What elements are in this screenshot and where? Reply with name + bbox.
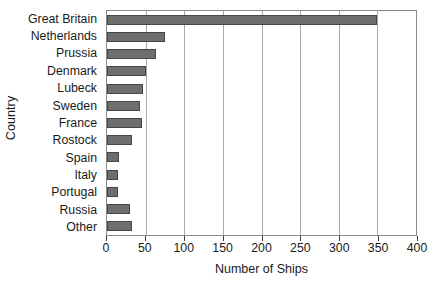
bar-row: [107, 166, 416, 183]
bar: [107, 101, 140, 111]
bar: [107, 135, 132, 145]
bar: [107, 118, 142, 128]
x-axis-tick-label: 50: [138, 241, 152, 255]
bar-row: [107, 80, 416, 97]
x-axis-tick-label: 350: [368, 241, 389, 255]
bar-row: [107, 114, 416, 131]
bar-row: [107, 28, 416, 45]
x-axis-tick-label: 100: [173, 241, 194, 255]
bar-row: [107, 63, 416, 80]
ships-by-country-bar-chart: Country Great BritainNetherlandsPrussiaD…: [0, 0, 435, 296]
bar: [107, 66, 146, 76]
bar-row: [107, 149, 416, 166]
y-axis-tick-label: France: [16, 114, 102, 131]
x-axis-tick-label: 300: [329, 241, 350, 255]
x-axis-tick-label: 400: [407, 241, 428, 255]
y-axis-tick-label: Lubeck: [16, 80, 102, 97]
bar-row: [107, 45, 416, 62]
y-axis-tick-label: Portugal: [16, 184, 102, 201]
bar: [107, 204, 130, 214]
bar: [107, 170, 118, 180]
bar: [107, 84, 143, 94]
y-axis-tick-label: Russia: [16, 201, 102, 218]
bar: [107, 15, 377, 25]
y-axis-tick-label: Other: [16, 219, 102, 236]
bar: [107, 32, 165, 42]
x-axis-tick-label: 150: [212, 241, 233, 255]
y-axis-tick-label: Netherlands: [16, 27, 102, 44]
y-axis-tick-label: Rostock: [16, 132, 102, 149]
x-axis-tick-label: 0: [103, 241, 110, 255]
x-axis-title: Number of Ships: [106, 262, 417, 276]
x-axis-tick-label: 200: [251, 241, 272, 255]
bar-row: [107, 132, 416, 149]
y-axis-tick-label: Sweden: [16, 97, 102, 114]
bar-series: [107, 11, 416, 235]
y-axis-tick-label: Prussia: [16, 45, 102, 62]
bar: [107, 221, 132, 231]
y-axis-tick-label: Italy: [16, 167, 102, 184]
x-axis-tick-labels: 050100150200250300350400: [106, 241, 417, 259]
bar-row: [107, 218, 416, 235]
y-axis-tick-label: Spain: [16, 149, 102, 166]
y-axis-tick-labels: Great BritainNetherlandsPrussiaDenmarkLu…: [16, 10, 102, 236]
y-axis-tick-label: Great Britain: [16, 10, 102, 27]
bar: [107, 152, 119, 162]
x-axis-tick-label: 250: [290, 241, 311, 255]
y-axis-tick-label: Denmark: [16, 62, 102, 79]
plot-area: [106, 10, 417, 236]
bar-row: [107, 97, 416, 114]
bar: [107, 49, 156, 59]
bar-row: [107, 11, 416, 28]
bar: [107, 187, 118, 197]
bar-row: [107, 201, 416, 218]
bar-row: [107, 183, 416, 200]
